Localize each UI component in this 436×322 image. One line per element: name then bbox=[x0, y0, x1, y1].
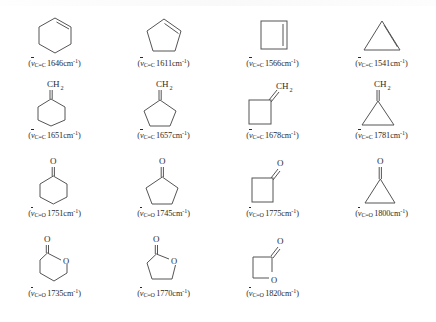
label-cyclohexene: (vC=C1646cm-1) bbox=[28, 58, 80, 68]
value-cyclopentene: 1611 bbox=[156, 59, 172, 68]
svg-text:2: 2 bbox=[60, 83, 63, 90]
value-methylenecyclobutane: 1678 bbox=[265, 131, 281, 140]
svg-text:CH: CH bbox=[374, 79, 387, 89]
svg-text:O: O bbox=[277, 158, 284, 168]
cell-cyclopentanone: O (vC=O1745cm-1) bbox=[109, 152, 218, 218]
value-cyclohexene: 1646 bbox=[47, 59, 63, 68]
label-cyclopentanone: (vC=O1745cm-1) bbox=[137, 208, 190, 218]
value-cyclobutene: 1566 bbox=[265, 59, 281, 68]
label-cyclobutene: (vC=C1566cm-1) bbox=[246, 58, 298, 68]
structure-methylenecyclopentane: CH 2 bbox=[136, 77, 192, 127]
label-delta-valerolactone: (vC=O1735cm-1) bbox=[28, 288, 81, 298]
label-cyclopentene: (vC=C1611cm-1) bbox=[137, 58, 189, 68]
cell-empty bbox=[327, 232, 436, 298]
cell-cyclopentene: (vC=C1611cm-1) bbox=[109, 8, 218, 68]
label-cyclobutanone: (vC=O1775cm-1) bbox=[246, 208, 299, 218]
row-exocyclic-methylenes: CH 2 (vC=C1651cm-1) CH 2 bbox=[0, 74, 436, 140]
structure-cyclopentene bbox=[143, 15, 185, 55]
svg-text:O: O bbox=[159, 156, 166, 166]
structure-cyclopropene bbox=[360, 15, 404, 55]
svg-text:O: O bbox=[44, 234, 51, 244]
value-methylenecyclohexane: 1651 bbox=[47, 131, 63, 140]
cell-beta-propiolactone: O O (vC=O1820cm-1) bbox=[218, 232, 327, 298]
structure-gamma-butyrolactone: O O bbox=[136, 231, 192, 285]
structure-beta-propiolactone: O O bbox=[245, 231, 301, 285]
structure-methylenecyclobutane: CH 2 bbox=[243, 77, 303, 127]
label-methylenecyclopentane: (vC=C1657cm-1) bbox=[137, 130, 189, 140]
cell-cyclopropene: (vC=C1541cm-1) bbox=[327, 8, 436, 68]
svg-text:O: O bbox=[171, 256, 177, 266]
svg-text:2: 2 bbox=[289, 85, 292, 92]
label-beta-propiolactone: (vC=O1820cm-1) bbox=[246, 288, 299, 298]
cell-cyclobutene: (vC=C1566cm-1) bbox=[218, 8, 327, 68]
svg-text:O: O bbox=[277, 236, 284, 246]
svg-text:2: 2 bbox=[387, 83, 390, 90]
value-gamma-butyrolactone: 1770 bbox=[156, 289, 172, 298]
structure-methylenecyclopropane: CH 2 bbox=[354, 77, 410, 127]
value-cyclopentanone: 1745 bbox=[156, 209, 172, 218]
label-methylenecyclopropane: (vC=C1781cm-1) bbox=[355, 130, 407, 140]
cell-methylenecyclobutane: CH 2 (vC=C1678cm-1) bbox=[218, 74, 327, 140]
label-cyclopropanone: (vC=O1800cm-1) bbox=[355, 208, 408, 218]
cell-cyclohexanone: O (vC=O1751cm-1) bbox=[0, 152, 109, 218]
svg-text:CH: CH bbox=[276, 81, 289, 91]
svg-text:O: O bbox=[271, 275, 277, 285]
row-lactones: O O (vC=O1735cm-1) bbox=[0, 232, 436, 298]
structure-delta-valerolactone: O O bbox=[27, 231, 83, 285]
value-cyclohexanone: 1751 bbox=[47, 209, 63, 218]
cell-methylenecyclopropane: CH 2 (vC=C1781cm-1) bbox=[327, 74, 436, 140]
svg-text:O: O bbox=[63, 256, 69, 266]
structure-cyclobutanone: O bbox=[246, 153, 300, 205]
row-cyclic-ketones: O (vC=O1751cm-1) O bbox=[0, 152, 436, 218]
row-cycloalkenes: (vC=C1646cm-1) (vC=C1611cm-1) bbox=[0, 8, 436, 68]
label-methylenecyclobutane: (vC=C1678cm-1) bbox=[246, 130, 298, 140]
svg-text:O: O bbox=[153, 234, 160, 244]
value-beta-propiolactone: 1820 bbox=[265, 289, 281, 298]
structure-cyclohexanone: O bbox=[29, 153, 81, 205]
svg-text:O: O bbox=[50, 156, 57, 166]
structure-cyclohexene bbox=[33, 15, 77, 55]
structure-cyclobutene bbox=[254, 15, 292, 55]
label-gamma-butyrolactone: (vC=O1770cm-1) bbox=[137, 288, 190, 298]
structure-cyclopropanone: O bbox=[356, 153, 408, 205]
cell-methylenecyclopentane: CH 2 (vC=C1657cm-1) bbox=[109, 74, 218, 140]
value-cyclopropene: 1541 bbox=[374, 59, 390, 68]
structure-methylenecyclohexane: CH 2 bbox=[27, 77, 83, 127]
svg-text:2: 2 bbox=[169, 83, 172, 90]
svg-text:CH: CH bbox=[156, 79, 169, 89]
value-methylenecyclopropane: 1781 bbox=[374, 131, 390, 140]
label-methylenecyclohexane: (vC=C1651cm-1) bbox=[28, 130, 80, 140]
cell-delta-valerolactone: O O (vC=O1735cm-1) bbox=[0, 232, 109, 298]
cell-cyclopropanone: O (vC=O1800cm-1) bbox=[327, 152, 436, 218]
structure-cyclopentanone: O bbox=[138, 153, 190, 205]
cell-gamma-butyrolactone: O O (vC=O1770cm-1) bbox=[109, 232, 218, 298]
svg-text:O: O bbox=[377, 156, 384, 166]
cell-cyclobutanone: O (vC=O1775cm-1) bbox=[218, 152, 327, 218]
cropped-text-artifact bbox=[0, 0, 436, 6]
value-methylenecyclopentane: 1657 bbox=[156, 131, 172, 140]
cell-methylenecyclohexane: CH 2 (vC=C1651cm-1) bbox=[0, 74, 109, 140]
figure-sheet: (vC=C1646cm-1) (vC=C1611cm-1) bbox=[0, 0, 436, 322]
svg-text:CH: CH bbox=[47, 79, 60, 89]
value-cyclobutanone: 1775 bbox=[265, 209, 281, 218]
value-delta-valerolactone: 1735 bbox=[47, 289, 63, 298]
label-cyclopropene: (vC=C1541cm-1) bbox=[355, 58, 407, 68]
label-cyclohexanone: (vC=O1751cm-1) bbox=[28, 208, 81, 218]
value-cyclopropanone: 1800 bbox=[374, 209, 390, 218]
cell-cyclohexene: (vC=C1646cm-1) bbox=[0, 8, 109, 68]
